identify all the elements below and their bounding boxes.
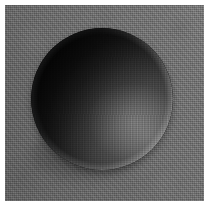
sphere-grain-texture	[31, 28, 173, 170]
gray-backdrop	[5, 5, 204, 201]
dark-sphere	[31, 28, 173, 170]
image-canvas: Grayscale photograph of a dark matte sph…	[0, 0, 209, 206]
sphere-group	[31, 28, 173, 170]
